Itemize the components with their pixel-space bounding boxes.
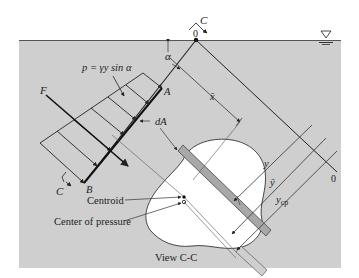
label-b: B (86, 184, 93, 195)
centroid-point (182, 195, 185, 198)
label-y: y (263, 158, 269, 169)
section-marker-top: C (189, 14, 208, 33)
label-a: A (163, 86, 171, 97)
label-f: F (39, 84, 47, 96)
hydrostatic-inclined-plate-diagram: C 0 α p = γy sin α F A B C 0 x̄ dA (0, 0, 359, 278)
label-c-top: C (200, 14, 208, 26)
label-c-bottom: C (56, 185, 64, 197)
label-center-of-pressure: Center of pressure (54, 216, 131, 227)
free-surface-icon (319, 31, 333, 45)
label-centroid: Centroid (87, 195, 124, 206)
label-xbar: x̄ (209, 91, 215, 102)
label-ybar: ȳ (269, 177, 275, 188)
label-origin-right: 0 (331, 173, 336, 184)
label-da: dA (155, 116, 167, 127)
pressure-formula: p = γy sin α (81, 62, 132, 73)
label-alpha: α (165, 50, 171, 62)
label-origin-top: 0 (193, 28, 198, 39)
label-view-cc: View C-C (155, 252, 197, 263)
